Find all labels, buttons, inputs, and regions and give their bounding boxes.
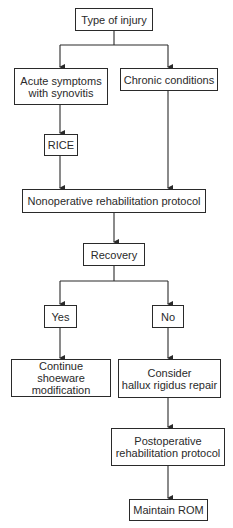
node-type-of-injury: Type of injury — [75, 8, 153, 31]
node-label: Nonoperative rehabilitation protocol — [27, 195, 200, 207]
node-label: Type of injury — [81, 14, 146, 26]
node-label: Recovery — [91, 249, 137, 261]
node-continue-shoeware: Continue shoeware modification — [11, 359, 111, 397]
node-label-line2: modification — [32, 384, 91, 396]
node-no: No — [152, 305, 184, 328]
node-label-line1: Continue shoeware — [14, 360, 108, 384]
node-label: Chronic conditions — [124, 74, 215, 86]
node-acute-symptoms: Acute symptoms with synovitis — [14, 68, 108, 105]
node-label: Yes — [52, 311, 70, 323]
node-label: RICE — [48, 139, 74, 151]
node-label: Maintain ROM — [133, 504, 203, 516]
node-maintain-rom: Maintain ROM — [129, 499, 208, 521]
node-postoperative-rehab: Postoperative rehabilitation protocol — [111, 428, 225, 466]
node-label: No — [161, 311, 175, 323]
node-label-line2: with synovitis — [29, 87, 94, 99]
node-nonoperative-rehab: Nonoperative rehabilitation protocol — [22, 189, 206, 213]
node-label-line1: Acute symptoms — [20, 75, 101, 87]
node-recovery: Recovery — [83, 243, 145, 266]
node-rice: RICE — [44, 134, 78, 156]
node-yes: Yes — [44, 305, 77, 328]
node-label-line1: Postoperative — [134, 435, 201, 447]
node-consider-repair: Consider hallux rigidus repair — [118, 359, 221, 398]
node-label-line1: Consider — [147, 367, 191, 379]
node-label-line2: rehabilitation protocol — [116, 447, 221, 459]
node-label-line2: hallux rigidus repair — [122, 379, 217, 391]
node-chronic-conditions: Chronic conditions — [120, 68, 218, 91]
